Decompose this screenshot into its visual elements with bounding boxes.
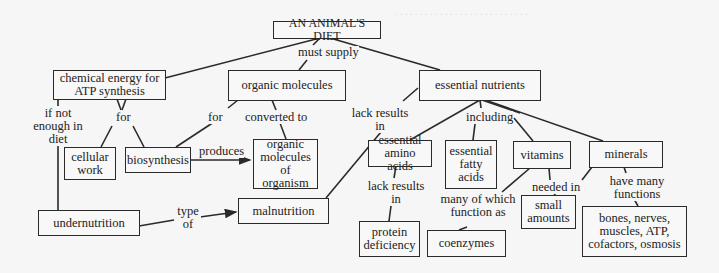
node-label: protein deficiency [362, 226, 417, 252]
node-label: cellular work [67, 151, 113, 177]
link-label-including: including [466, 111, 513, 124]
node-protein-deficiency: protein deficiency [359, 221, 420, 257]
link-label-many-of-which: many of which function as [438, 193, 518, 219]
link-label-lack-results-in-nutrients: lack results in [351, 107, 409, 133]
link-label-for-organic: for [208, 111, 223, 124]
node-label: essential amino acids [371, 134, 429, 173]
node-vitamins: vitamins [513, 141, 571, 169]
node-label: organic molecules [241, 79, 332, 92]
node-essential-amino-acids: essential amino acids [368, 140, 432, 167]
node-label: coenzymes [439, 237, 495, 250]
link-label-must-supply: must supply [298, 46, 359, 59]
link-label-converted-to: converted to [245, 111, 307, 124]
node-label: essential fatty acids [448, 145, 494, 184]
node-minerals: minerals [589, 141, 663, 168]
node-label: AN ANIMAL'S DIET [276, 17, 378, 43]
node-biosynthesis: biosynthesis [125, 147, 191, 173]
node-small-amounts: small amounts [521, 195, 576, 229]
link-label-have-many-functions: have many functions [602, 175, 672, 201]
node-mineral-functions: bones, nerves, muscles, ATP, cofactors, … [582, 206, 687, 257]
node-label: vitamins [520, 149, 563, 162]
node-root-animals-diet: AN ANIMAL'S DIET [273, 21, 381, 39]
link-label-type-of: type of [175, 205, 201, 231]
node-label: biosynthesis [127, 154, 189, 167]
node-label: small amounts [524, 199, 573, 225]
node-label: undernutrition [53, 217, 125, 230]
node-coenzymes: coenzymes [427, 230, 506, 257]
link-label-lack-results-in-amino: lack results in [367, 180, 425, 206]
node-undernutrition: undernutrition [38, 210, 140, 236]
link-label-if-not-enough: if not enough in diet [33, 107, 83, 146]
link-label-needed-in: needed in [532, 181, 580, 194]
node-essential-fatty-acids: essential fatty acids [445, 140, 497, 189]
link-label-for-energy: for [116, 111, 131, 124]
node-organic-molecules-of-organism: organic molecules of organism [253, 139, 318, 189]
node-label: minerals [604, 148, 647, 161]
node-label: essential nutrients [435, 79, 525, 92]
node-cellular-work: cellular work [64, 147, 116, 180]
node-label: organic molecules of organism [256, 138, 315, 190]
node-malnutrition: malnutrition [238, 198, 329, 224]
node-chemical-energy: chemical energy for ATP synthesis [53, 70, 166, 100]
node-label: malnutrition [253, 205, 315, 218]
node-organic-molecules: organic molecules [228, 70, 346, 101]
link-label-produces: produces [199, 145, 244, 158]
node-essential-nutrients: essential nutrients [419, 70, 541, 101]
node-label: bones, nerves, muscles, ATP, cofactors, … [585, 212, 684, 251]
node-label: chemical energy for ATP synthesis [56, 72, 163, 98]
